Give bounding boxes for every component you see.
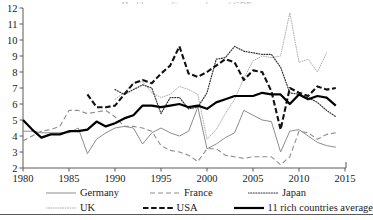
- legend-swatch-average: [234, 203, 264, 212]
- svg-text:2005: 2005: [243, 173, 264, 184]
- legend-item-average: 11 rich countries average: [234, 202, 373, 213]
- legend-swatch-uk: [46, 203, 76, 212]
- legend-item-uk: UK: [46, 202, 143, 213]
- legend-label-japan: Japan: [282, 187, 306, 198]
- svg-text:1980: 1980: [13, 173, 34, 184]
- x-axis-ticks: 19801985199019952000200520102015: [13, 168, 356, 184]
- svg-text:5: 5: [12, 115, 17, 126]
- legend-swatch-japan: [248, 188, 278, 197]
- legend-row-1: Germany France Japan: [0, 185, 373, 200]
- legend-item-japan: Japan: [248, 187, 306, 198]
- series-group: [23, 13, 336, 165]
- legend-item-germany: Germany: [46, 187, 150, 198]
- legend-row-2: UK USA 11 rich countries average: [0, 200, 373, 215]
- svg-text:8: 8: [12, 67, 17, 78]
- y-axis-ticks: 12111098765432: [7, 3, 23, 174]
- chart-svg: 12111098765432 1980198519901995200020052…: [0, 0, 373, 188]
- bottom-divider: [0, 214, 373, 215]
- svg-text:7: 7: [12, 83, 17, 94]
- svg-text:3: 3: [12, 147, 17, 158]
- legend-swatch-germany: [46, 188, 76, 197]
- svg-text:1995: 1995: [151, 173, 172, 184]
- legend-item-usa: USA: [143, 202, 234, 213]
- legend-label-average: 11 rich countries average: [268, 202, 373, 213]
- chart-screenshot: Health expenditure as share of GDP 12111…: [0, 0, 373, 220]
- legend-swatch-france: [150, 188, 180, 197]
- legend-item-france: France: [150, 187, 248, 198]
- svg-text:6: 6: [12, 99, 17, 110]
- svg-text:2015: 2015: [335, 173, 356, 184]
- svg-text:2000: 2000: [197, 173, 218, 184]
- svg-text:1990: 1990: [105, 173, 126, 184]
- svg-text:10: 10: [7, 35, 18, 46]
- legend-label-uk: UK: [80, 202, 95, 213]
- svg-text:1985: 1985: [59, 173, 80, 184]
- legend-label-france: France: [184, 187, 213, 198]
- svg-text:12: 12: [7, 3, 18, 14]
- svg-text:9: 9: [12, 51, 17, 62]
- svg-text:4: 4: [12, 131, 18, 142]
- svg-text:2010: 2010: [289, 173, 310, 184]
- legend-label-germany: Germany: [80, 187, 119, 198]
- plot-area: 12111098765432 1980198519901995200020052…: [0, 0, 373, 188]
- legend-label-usa: USA: [177, 202, 198, 213]
- svg-text:11: 11: [7, 19, 17, 30]
- legend-swatch-usa: [143, 203, 173, 212]
